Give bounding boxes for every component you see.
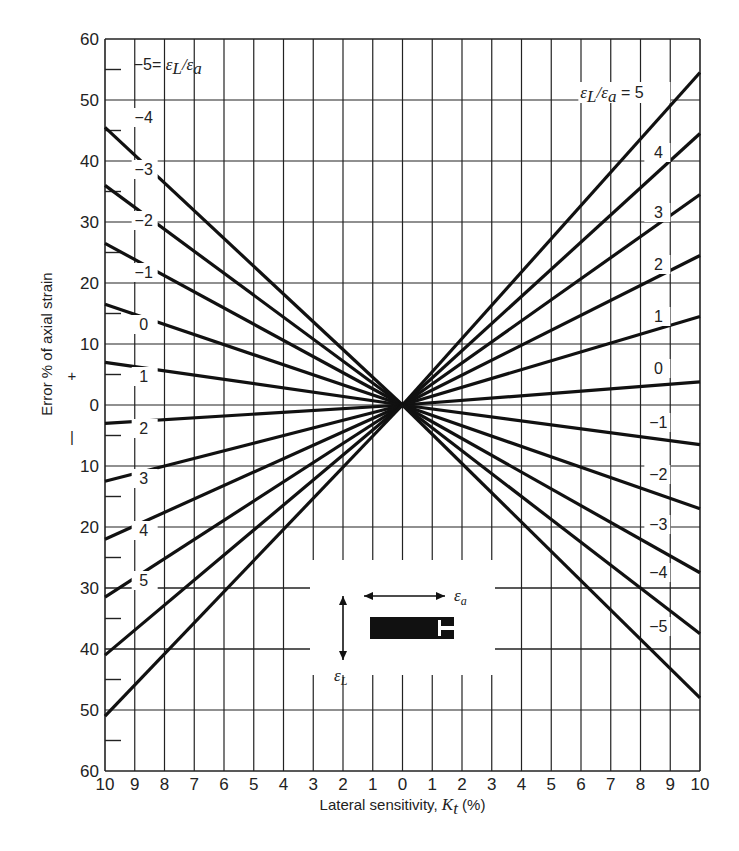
line-label: 4 xyxy=(654,144,663,161)
y-axis-title: Error % of axial strain xyxy=(38,272,55,415)
line-label: 3 xyxy=(654,204,663,221)
lateral-sensitivity-error-chart: 6050403020100102030405060109876543210123… xyxy=(0,0,739,851)
y-tick-label: 0 xyxy=(90,396,99,415)
x-tick-label: 6 xyxy=(576,775,585,794)
x-tick-label: 3 xyxy=(309,775,318,794)
y-tick-label: 40 xyxy=(80,152,99,171)
y-tick-label: 20 xyxy=(80,274,99,293)
x-axis-title: Lateral sensitivity, Kt (%) xyxy=(320,795,486,818)
line-label: 1 xyxy=(139,368,148,385)
y-tick-label: 10 xyxy=(80,335,99,354)
x-tick-label: 8 xyxy=(160,775,169,794)
x-tick-label: 9 xyxy=(666,775,675,794)
x-tick-label: 5 xyxy=(547,775,556,794)
y-tick-label: 20 xyxy=(80,518,99,537)
line-label: −2 xyxy=(135,212,153,229)
line-label: −5 xyxy=(649,618,667,635)
x-tick-label: 8 xyxy=(636,775,645,794)
x-tick-label: 5 xyxy=(249,775,258,794)
line-label: −3 xyxy=(649,516,667,533)
y-axis-plus-sign: + xyxy=(68,367,77,384)
line-label: 0 xyxy=(654,360,663,377)
y-tick-label: 50 xyxy=(80,91,99,110)
y-axis-minus-sign: | xyxy=(70,428,74,445)
x-tick-label: 6 xyxy=(219,775,228,794)
line-label: 5 xyxy=(139,572,148,589)
y-tick-label: 30 xyxy=(80,579,99,598)
line-label: 4 xyxy=(139,522,148,539)
x-tick-label: 4 xyxy=(279,775,288,794)
x-tick-label: 0 xyxy=(398,775,407,794)
line-label: −1 xyxy=(135,264,153,281)
line-label: −4 xyxy=(135,109,153,126)
line-label: 3 xyxy=(139,470,148,487)
line-label: −2 xyxy=(649,466,667,483)
line-label: 0 xyxy=(139,316,148,333)
x-tick-label: 7 xyxy=(190,775,199,794)
x-tick-label: 1 xyxy=(428,775,437,794)
x-tick-label: 4 xyxy=(517,775,526,794)
line-label: −5= εL/εa xyxy=(134,55,202,78)
line-label: 2 xyxy=(139,420,148,437)
line-label: −4 xyxy=(649,564,667,581)
line-label: −3 xyxy=(135,161,153,178)
gauge-tab-slot xyxy=(441,626,454,630)
y-tick-label: 30 xyxy=(80,213,99,232)
x-tick-label: 10 xyxy=(691,775,710,794)
x-tick-label: 2 xyxy=(457,775,466,794)
line-label: 1 xyxy=(654,308,663,325)
gauge-tab-slot xyxy=(438,620,441,636)
x-tick-label: 10 xyxy=(96,775,115,794)
line-label: 2 xyxy=(654,256,663,273)
y-tick-label: 50 xyxy=(80,701,99,720)
x-tick-label: 9 xyxy=(130,775,139,794)
x-tick-label: 7 xyxy=(606,775,615,794)
y-tick-label: 40 xyxy=(80,640,99,659)
x-tick-label: 1 xyxy=(368,775,377,794)
y-tick-label: 60 xyxy=(80,30,99,49)
line-label: −1 xyxy=(649,414,667,431)
x-tick-label: 3 xyxy=(487,775,496,794)
y-tick-label: 10 xyxy=(80,457,99,476)
x-tick-label: 2 xyxy=(338,775,347,794)
